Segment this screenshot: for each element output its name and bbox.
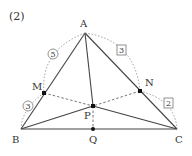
point-M — [42, 91, 46, 95]
label-P: P — [84, 110, 91, 121]
segment-CP — [93, 106, 177, 129]
label-N: N — [145, 77, 154, 88]
point-Q — [91, 127, 95, 131]
label-C: C — [175, 134, 183, 145]
segment-AC — [85, 33, 177, 129]
ratio-mark-NC: 2 — [164, 98, 173, 108]
ratio-mark-AM: 5 — [48, 49, 58, 59]
label-A: A — [79, 18, 88, 29]
triangle-diagram: 5 3 3 2 (2) A B C M N P Q — [0, 0, 192, 156]
label-M: M — [32, 81, 42, 92]
point-N — [138, 89, 142, 93]
label-B: B — [12, 134, 19, 145]
segment-AB — [21, 33, 85, 129]
segment-AP — [85, 33, 93, 106]
svg-text:3: 3 — [25, 102, 30, 111]
point-P — [91, 104, 95, 108]
label-Q: Q — [89, 134, 97, 145]
dashed-NP — [93, 91, 140, 106]
ratio-mark-AN: 3 — [117, 45, 126, 55]
dashed-MP — [44, 93, 93, 106]
svg-text:5: 5 — [50, 50, 55, 59]
problem-label: (2) — [9, 10, 25, 23]
svg-text:2: 2 — [166, 99, 171, 108]
svg-text:3: 3 — [119, 46, 124, 55]
ratio-mark-MB: 3 — [23, 101, 33, 111]
